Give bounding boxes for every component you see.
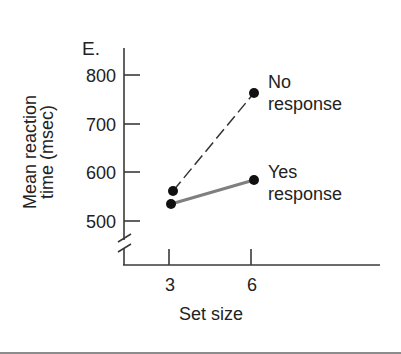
no-response-label-line-1: No <box>268 72 291 92</box>
y-axis-title: Mean reaction time (msec) <box>20 95 57 209</box>
yes-response-point-6 <box>249 175 259 185</box>
yes-response-point-3 <box>166 199 176 209</box>
no-response-point-6 <box>249 88 259 98</box>
y-tick-label-700: 700 <box>86 115 116 135</box>
y-ticks <box>124 75 140 221</box>
no-response-label-line-2: response <box>268 94 342 114</box>
panel-label: E. <box>82 38 100 59</box>
y-axis-title-line-2: time (msec) <box>37 105 57 199</box>
yes-response-label-line-2: response <box>268 184 342 204</box>
reaction-time-chart: E. Mean reaction time (msec) 800 700 600… <box>0 0 401 354</box>
y-tick-label-600: 600 <box>86 163 116 183</box>
x-axis <box>123 249 380 265</box>
x-tick-label-3: 3 <box>165 275 175 295</box>
yes-response-line <box>171 180 254 204</box>
y-axis <box>118 48 131 265</box>
x-tick-label-6: 6 <box>247 275 257 295</box>
no-response-point-3 <box>168 186 178 196</box>
yes-response-label: Yes response <box>268 162 342 204</box>
no-response-line <box>173 93 254 191</box>
y-tick-label-500: 500 <box>86 212 116 232</box>
yes-response-label-line-1: Yes <box>268 162 297 182</box>
y-tick-label-800: 800 <box>86 66 116 86</box>
x-axis-title: Set size <box>179 304 243 324</box>
no-response-label: No response <box>268 72 342 114</box>
